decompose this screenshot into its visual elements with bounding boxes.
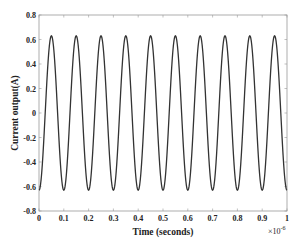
x-tick-label: 0.7	[208, 214, 218, 223]
y-tick-label: -0.4	[23, 158, 36, 167]
y-tick-label: 0	[32, 109, 36, 118]
y-axis-label: Current output(A)	[10, 75, 21, 151]
y-tick-label: -0.8	[23, 207, 36, 216]
line-chart: 00.10.20.30.40.50.60.70.80.91 0.80.60.40…	[0, 0, 300, 246]
y-tick-label: 0.2	[26, 85, 36, 94]
y-tick-label: 0.8	[26, 11, 36, 20]
x-axis-label: Time (seconds)	[133, 227, 194, 238]
x-tick-label: 0.4	[133, 214, 143, 223]
x-tick-label: 0.2	[84, 214, 94, 223]
x-tick-label: 0.6	[183, 214, 193, 223]
x-tick-label: 0	[37, 214, 41, 223]
x-tick-label: 1	[285, 214, 289, 223]
x-tick-label: 0.5	[158, 214, 168, 223]
x-tick-label: 0.8	[232, 214, 242, 223]
y-tick-label: -0.6	[23, 183, 36, 192]
x-tick-label: 0.3	[108, 214, 118, 223]
x-tick-label: 0.1	[59, 214, 69, 223]
x-tick-labels: 00.10.20.30.40.50.60.70.80.91	[37, 214, 289, 223]
y-tick-label: 0.4	[26, 60, 36, 69]
x-tick-label: 0.9	[257, 214, 267, 223]
plot-area	[39, 15, 287, 211]
y-tick-label: -0.2	[23, 134, 36, 143]
x-exponent: ×10-6	[268, 225, 286, 236]
y-tick-labels: 0.80.60.40.20-0.2-0.4-0.6-0.8	[23, 11, 36, 216]
y-tick-label: 0.6	[26, 36, 36, 45]
